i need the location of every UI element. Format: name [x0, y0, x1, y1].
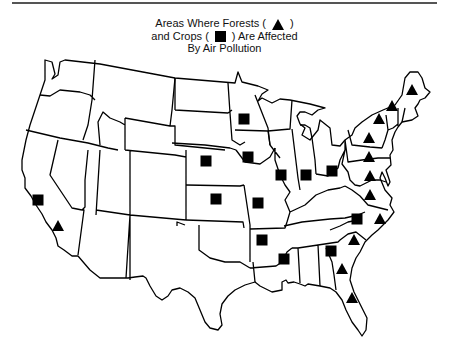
triangle-icon: New York (north) — [373, 113, 385, 124]
square-icon: Iowa — [243, 152, 254, 163]
forest-markers: California (south)MaineVermont / New Ham… — [52, 84, 418, 303]
triangle-icon: Maine — [406, 84, 418, 95]
square-icon: Minnesota — [239, 114, 250, 125]
square-icon: Kansas — [211, 194, 222, 205]
state-borders-west — [26, 60, 225, 280]
square-icon: Missouri — [253, 198, 264, 209]
square-icon: Indiana — [301, 170, 312, 181]
square-icon: North Carolina (west) — [352, 214, 363, 225]
triangle-icon: California (south) — [52, 220, 64, 231]
square-icon: California (north) — [33, 195, 44, 206]
triangle-icon: New York (south) — [363, 132, 375, 143]
triangle-icon: South Carolina — [348, 234, 360, 245]
triangle-icon: Vermont / New Hampshire — [386, 100, 398, 111]
square-icon: Illinois — [276, 170, 287, 181]
square-icon: Arkansas — [257, 235, 268, 246]
state-borders-plains — [172, 78, 292, 282]
state-borders-east — [255, 95, 405, 290]
triangle-icon: Maryland / West Virginia — [364, 170, 376, 181]
square-icon: Georgia (north) — [326, 246, 337, 257]
triangle-icon: Georgia (south) — [336, 263, 348, 274]
triangle-icon: Pennsylvania — [363, 151, 375, 162]
square-icon: Mississippi — [279, 254, 290, 265]
triangle-icon: North Carolina (east) — [374, 213, 386, 224]
triangle-icon: Virginia — [364, 189, 376, 200]
us-map: California (north)MinnesotaNebraskaIowaI… — [0, 0, 449, 364]
square-icon: Ohio — [327, 166, 338, 177]
square-icon: Nebraska — [201, 156, 212, 167]
